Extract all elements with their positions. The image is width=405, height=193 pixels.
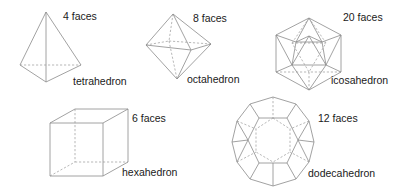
polyhedra-diagram (0, 0, 405, 193)
dodecahedron-name-label: dodecahedron (308, 168, 375, 179)
tetrahedron-figure (20, 12, 81, 82)
dodecahedron-faces-label: 12 faces (318, 113, 358, 124)
hexahedron-faces-label: 6 faces (132, 113, 166, 124)
tetrahedron-name-label: tetrahedron (73, 76, 127, 87)
octahedron-name-label: octahedron (187, 74, 240, 85)
icosahedron-name-label: icosahedron (331, 75, 388, 86)
hexahedron-name-label: hexahedron (122, 167, 177, 178)
dodecahedron-figure (232, 97, 314, 186)
tetrahedron-faces-label: 4 faces (63, 11, 97, 22)
icosahedron-faces-label: 20 faces (343, 12, 383, 23)
hexahedron-figure (50, 109, 128, 176)
octahedron-faces-label: 8 faces (193, 13, 227, 24)
